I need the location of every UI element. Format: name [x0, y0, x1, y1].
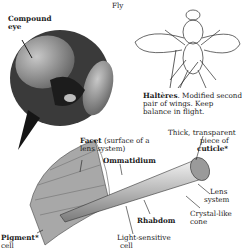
fly-head-illustration — [8, 27, 119, 150]
ommatidia-cluster — [30, 140, 110, 245]
pigment-mark: * — [35, 233, 39, 242]
facet-desc-2: lens system) — [80, 145, 125, 153]
fly-line-drawing — [135, 10, 240, 88]
compound-eye-label-2: eye — [8, 23, 21, 31]
ommatidium-label: Ommatidium — [103, 157, 156, 165]
crystal-cone-label-2: cone — [190, 218, 207, 226]
cuticle-mark: * — [224, 144, 228, 153]
cuticle-word: cuticle — [197, 144, 224, 153]
light-cell-label-2: cell — [120, 242, 133, 250]
pigment-cell-label-2: cell — [1, 242, 14, 250]
halteres-desc-3: balance in flight. — [143, 108, 204, 116]
cuticle-term: cuticle* — [197, 145, 228, 153]
rhabdom-label: Rhabdom — [137, 217, 175, 225]
title: Fly — [112, 2, 123, 10]
lens-system-label-2: system — [204, 196, 229, 204]
